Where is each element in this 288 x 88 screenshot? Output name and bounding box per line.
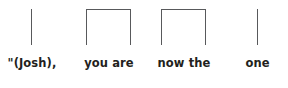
label-layer: "(Josh),you arenow theone: [0, 0, 288, 88]
segment-label: now the: [155, 56, 213, 70]
phrase-bracketing-diagram: "(Josh),you arenow theone: [0, 0, 288, 88]
segment-label: "(Josh),: [2, 56, 62, 70]
segment-label: you are: [80, 56, 138, 70]
segment-label: one: [230, 56, 285, 70]
